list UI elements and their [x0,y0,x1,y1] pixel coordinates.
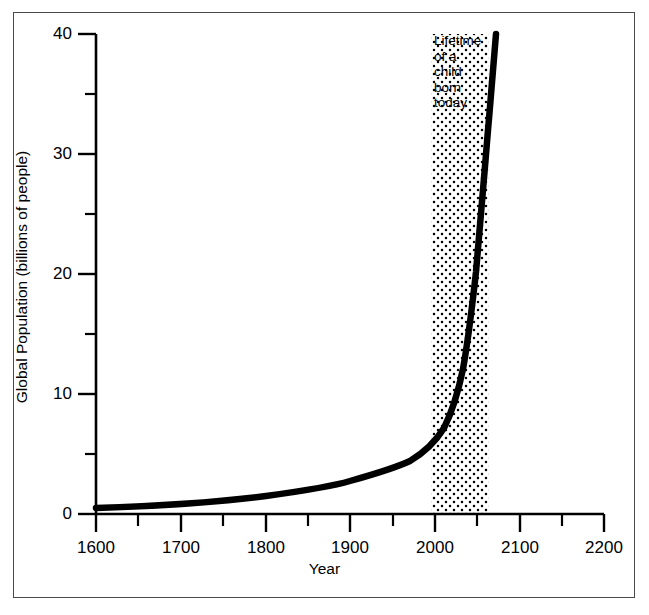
y-major-ticks [78,34,96,514]
x-tick-label-1700: 1700 [141,538,221,558]
annotation-line-1: Lifetime [434,33,492,49]
x-tick-label-2200: 2200 [564,538,644,558]
x-tick-label-1900: 1900 [310,538,390,558]
annotation-line-2: of a [434,49,492,65]
y-axis-title: Global Population (billions of people) [13,107,31,447]
x-axis-title: Year [0,560,649,578]
x-tick-label-2000: 2000 [395,538,475,558]
annotation-line-4: born [434,80,492,96]
annotation-line-5: today [434,95,492,111]
x-major-ticks [96,514,604,532]
x-tick-label-1600: 1600 [56,538,136,558]
y-tick-label-40: 40 [18,24,72,44]
lifetime-annotation: Lifetime of a child born today [434,33,492,111]
y-tick-label-0: 0 [18,504,72,524]
x-tick-label-1800: 1800 [226,538,306,558]
figure-container: 40 30 20 10 0 1600 1700 1800 1900 2000 2… [0,0,649,615]
chart-plot-svg [0,0,649,615]
annotation-line-3: child [434,64,492,80]
x-tick-label-2100: 2100 [480,538,560,558]
